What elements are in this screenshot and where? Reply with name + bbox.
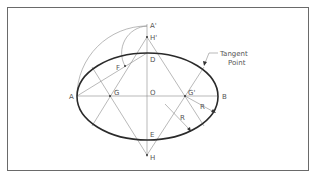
- label-r-2: R: [180, 114, 185, 122]
- label-h: H: [150, 154, 155, 162]
- line-h-prime-g-right: [147, 37, 204, 126]
- point-f: [124, 65, 126, 67]
- tangent-point-leader: [205, 53, 218, 63]
- label-a-prime: A': [150, 22, 157, 30]
- label-b: B: [222, 93, 227, 101]
- label-d: D: [150, 56, 155, 64]
- tangent-arrowhead: [203, 61, 207, 66]
- label-e: E: [150, 131, 154, 139]
- line-h-g-left: [92, 67, 147, 155]
- point-g-prime: [184, 95, 186, 97]
- ellipse-construction-diagram: A' H' D F A G O G' B R R E H Tangent Poi…: [0, 0, 317, 177]
- point-g: [109, 95, 111, 97]
- point-h-prime: [146, 36, 148, 38]
- label-g: G: [114, 89, 119, 97]
- label-r-1: R: [200, 103, 205, 111]
- arc-a-to-a-prime: [77, 26, 147, 96]
- label-h-prime: H': [150, 34, 157, 42]
- label-g-prime: G': [188, 89, 195, 97]
- ellipse: [77, 53, 218, 140]
- label-tangent: Tangent: [219, 50, 248, 58]
- label-f: F: [116, 64, 120, 72]
- arc-a-prime-to-f: [122, 26, 147, 66]
- label-a: A: [69, 93, 74, 101]
- label-point: Point: [228, 59, 246, 67]
- label-o: O: [150, 89, 156, 97]
- line-h-g-right: [147, 67, 204, 155]
- point-h: [146, 154, 148, 156]
